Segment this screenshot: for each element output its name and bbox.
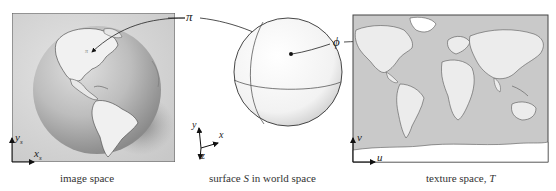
texture-map	[353, 15, 548, 162]
world-z-axis-label: z	[201, 150, 205, 161]
v-axis-label: v	[357, 131, 362, 143]
sphere-surface	[234, 18, 342, 126]
caption-world-space: surface S in world space	[209, 172, 316, 184]
xs-axis-label: xs	[34, 147, 42, 162]
ys-axis-label: ys	[15, 131, 23, 146]
world-y-axis-label: y	[192, 119, 196, 130]
phi-label: ϕ	[333, 34, 340, 50]
caption-texture-space: texture space, T	[426, 172, 495, 184]
caption-image-space: image space	[60, 172, 114, 184]
diagram-overlay	[0, 0, 556, 191]
u-axis-label: u	[377, 151, 383, 163]
world-x-axis-label: x	[219, 129, 223, 140]
pi-label: π	[186, 9, 193, 25]
